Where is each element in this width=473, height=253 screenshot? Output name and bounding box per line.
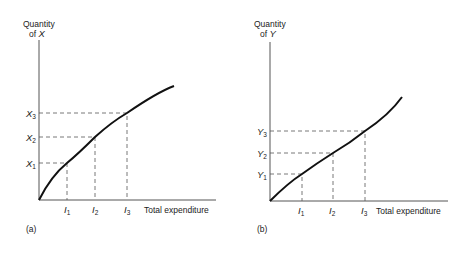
panel-b-x-tick-3: I3 — [361, 205, 368, 217]
panel-b-y-tick-2: Y2 — [257, 148, 267, 160]
panel-a-x-tick-3: I3 — [124, 204, 131, 216]
panel-a: Quantity of X X1 X2 X3 I1 I2 I3 Total ex… — [23, 19, 216, 234]
panel-a-guide-1 — [39, 163, 67, 200]
panel-a-y-tick-1: X1 — [25, 158, 36, 170]
panel-a-engel-curve — [39, 86, 174, 200]
panel-b-y-label-line2: of Y — [260, 28, 276, 39]
panel-a-x-label: Total expenditure — [144, 205, 209, 215]
panel-b-caption: (b) — [257, 224, 268, 234]
panel-b-x-label: Total expenditure — [376, 206, 441, 216]
panel-a-guide-3 — [39, 113, 127, 200]
panel-a-x-tick-1: I1 — [64, 204, 71, 216]
engel-curves-figure: Quantity of X X1 X2 X3 I1 I2 I3 Total ex… — [0, 0, 473, 253]
panel-a-y-label-line2: of X — [29, 28, 45, 39]
panel-a-y-tick-2: X2 — [25, 132, 36, 144]
panel-b-y-tick-1: Y1 — [257, 169, 267, 181]
panel-b-y-tick-3: Y3 — [257, 126, 267, 138]
panel-a-y-tick-3: X3 — [25, 108, 36, 120]
panel-b: Quantity of Y Y1 Y2 Y3 I1 I2 I3 Total ex… — [254, 19, 448, 234]
panel-b-x-tick-2: I2 — [329, 205, 336, 217]
panel-b-engel-curve — [270, 97, 402, 201]
panel-a-caption: (a) — [26, 224, 37, 234]
panel-a-x-tick-2: I2 — [92, 204, 99, 216]
panel-b-x-tick-1: I1 — [298, 205, 305, 217]
